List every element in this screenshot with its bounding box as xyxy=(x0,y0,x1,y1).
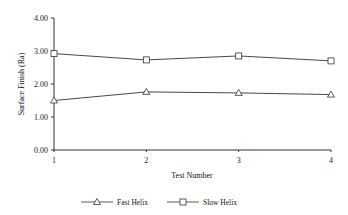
y-tick-label: 1.00 xyxy=(34,113,48,122)
legend-item-fast-helix: Fast Helix xyxy=(81,198,148,207)
triangle-marker-icon xyxy=(143,88,150,94)
series-fast-helix xyxy=(51,88,335,103)
y-axis-ticks: 0.001.002.003.004.00 xyxy=(34,14,54,155)
y-tick-label: 3.00 xyxy=(34,47,48,56)
square-marker-icon xyxy=(236,53,242,59)
series-slow-helix xyxy=(51,51,334,64)
legend-label-fast-helix: Fast Helix xyxy=(117,198,148,207)
x-tick-label: 3 xyxy=(237,156,241,165)
legend-label-slow-helix: Slow Helix xyxy=(203,198,237,207)
x-axis-title: Test Number xyxy=(171,171,213,180)
line-chart: 0.001.002.003.004.00 1234 Surface Finish… xyxy=(0,0,348,215)
square-marker-icon xyxy=(328,58,334,64)
triangle-marker-icon xyxy=(94,199,101,205)
x-tick-label: 2 xyxy=(144,156,148,165)
square-marker-icon xyxy=(51,51,57,57)
legend: Fast Helix Slow Helix xyxy=(81,198,237,207)
x-tick-label: 1 xyxy=(52,156,56,165)
y-tick-label: 0.00 xyxy=(34,146,48,155)
triangle-marker-icon xyxy=(328,91,335,97)
x-tick-label: 4 xyxy=(329,156,333,165)
y-axis-title: Surface Finish (Ra) xyxy=(17,52,26,115)
triangle-marker-icon xyxy=(235,89,242,95)
square-marker-icon xyxy=(143,57,149,63)
legend-item-slow-helix: Slow Helix xyxy=(167,198,237,207)
square-marker-icon xyxy=(180,199,186,205)
y-tick-label: 4.00 xyxy=(34,14,48,23)
y-tick-label: 2.00 xyxy=(34,80,48,89)
plot-series xyxy=(51,51,335,103)
x-axis-ticks: 1234 xyxy=(52,150,333,165)
